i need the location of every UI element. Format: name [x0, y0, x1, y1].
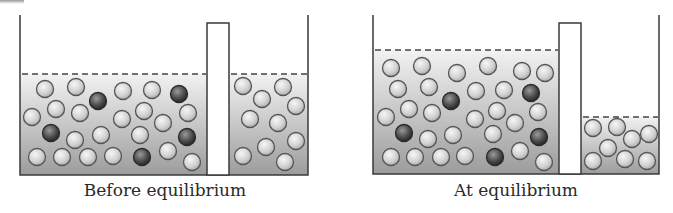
solvent-particle [132, 127, 149, 144]
solvent-particle [641, 126, 658, 143]
solvent-particle [114, 111, 131, 128]
solvent-particle [288, 133, 305, 150]
solvent-particle [514, 63, 531, 80]
solvent-particle [184, 154, 201, 171]
solvent-particle [480, 58, 497, 75]
solvent-particle [72, 105, 89, 122]
solute-particle [134, 149, 151, 166]
solvent-particle [115, 83, 132, 100]
solvent-particle [512, 143, 529, 160]
solvent-particle [468, 83, 485, 100]
solvent-particle [537, 65, 554, 82]
solvent-particle [54, 149, 71, 166]
solvent-particle [383, 149, 400, 166]
solute-particle [171, 86, 188, 103]
solvent-particle [160, 143, 177, 160]
solvent-particle [144, 82, 161, 99]
solute-particle [531, 129, 548, 146]
solute-particle [396, 125, 413, 142]
solvent-particle [390, 81, 407, 98]
solvent-particle [258, 139, 275, 156]
solvent-particle [485, 126, 502, 143]
solvent-particle [242, 111, 259, 128]
solvent-particle [155, 115, 172, 132]
solvent-particle [67, 132, 84, 149]
solvent-particle [37, 81, 54, 98]
solvent-particle [407, 149, 424, 166]
caption-before-equilibrium: Before equilibrium [84, 180, 246, 200]
solvent-particle [136, 103, 153, 120]
solvent-particle [445, 127, 462, 144]
beaker-before [20, 15, 308, 175]
solvent-particle [270, 115, 287, 132]
solvent-particle [585, 153, 602, 170]
solvent-particle [378, 109, 395, 126]
solute-particle [179, 129, 196, 146]
solvent-particle [401, 101, 418, 118]
semipermeable-membrane [559, 23, 581, 174]
solvent-particle [235, 78, 252, 95]
beaker-after [373, 15, 659, 174]
solvent-particle [383, 60, 400, 77]
solvent-particle [275, 79, 292, 96]
solvent-particle [424, 105, 441, 122]
solvent-particle [457, 148, 474, 165]
solvent-particle [105, 148, 122, 165]
semipermeable-membrane [207, 23, 229, 175]
solvent-particle [288, 98, 305, 115]
solvent-particle [68, 79, 85, 96]
solvent-particle [536, 154, 553, 171]
caption-at-equilibrium: At equilibrium [454, 180, 578, 200]
solvent-particle [600, 140, 617, 157]
solvent-particle [277, 154, 294, 171]
solute-particle [523, 85, 540, 102]
solvent-particle [609, 119, 626, 136]
solvent-particle [617, 151, 634, 168]
solvent-particle [489, 103, 506, 120]
solvent-particle [496, 82, 513, 99]
solvent-particle [639, 153, 656, 170]
solvent-particle [507, 115, 524, 132]
solvent-particle [420, 131, 437, 148]
solvent-particle [48, 101, 65, 118]
solvent-particle [24, 109, 41, 126]
solvent-particle [467, 111, 484, 128]
solvent-particle [80, 149, 97, 166]
solvent-particle [414, 58, 431, 75]
solvent-particle [180, 105, 197, 122]
solvent-particle [585, 120, 602, 137]
solute-particle [487, 149, 504, 166]
solvent-particle [235, 148, 252, 165]
solute-particle [443, 93, 460, 110]
solvent-particle [421, 79, 438, 96]
solvent-particle [93, 127, 110, 144]
solvent-particle [29, 149, 46, 166]
solute-particle [43, 125, 60, 142]
solvent-particle [449, 65, 466, 82]
solvent-particle [624, 131, 641, 148]
solute-particle [90, 93, 107, 110]
solvent-particle [530, 104, 547, 121]
solvent-particle [254, 91, 271, 108]
solvent-particle [433, 149, 450, 166]
